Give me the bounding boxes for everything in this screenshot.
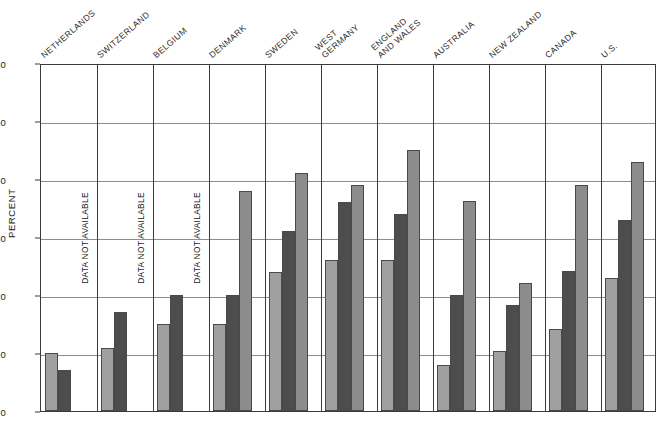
category-label: BELGIUM — [152, 26, 190, 60]
bar-chart: PERCENT NETHERLANDSSWITZERLANDBELGIUMDEN… — [0, 0, 669, 426]
bar — [213, 324, 226, 411]
category-label: AUSTRALIA — [432, 19, 477, 60]
y-tick-mark-20 — [35, 296, 40, 297]
bar — [463, 201, 476, 411]
category-label: SWEDEN — [264, 27, 301, 60]
y-tick-label-10: 10 — [0, 349, 6, 360]
bar — [170, 295, 183, 411]
data-not-available-label: DATA NOT AVAILABLE — [136, 192, 146, 284]
y-tick-label-60: 60 — [0, 59, 6, 70]
bar — [562, 271, 575, 411]
category-label: SWITZERLAND — [96, 10, 152, 60]
y-tick-mark-30 — [35, 238, 40, 239]
bar — [618, 220, 631, 411]
bar — [101, 348, 114, 411]
data-not-available-marker: DATA NOT AVAILABLE — [183, 65, 210, 411]
bar — [519, 283, 532, 411]
category-label-row: NETHERLANDSSWITZERLANDBELGIUMDENMARKSWED… — [40, 0, 656, 62]
bar-group — [321, 65, 377, 411]
bar — [605, 278, 618, 411]
bar-group — [601, 65, 657, 411]
bar — [226, 295, 239, 411]
bar — [407, 150, 420, 411]
bar — [295, 173, 308, 411]
category-label: CANADA — [544, 28, 579, 60]
bar — [45, 353, 58, 411]
bar — [549, 329, 562, 411]
bar — [114, 312, 127, 411]
category-label: ENGLAND AND WALES — [370, 10, 423, 60]
bar — [282, 231, 295, 411]
bar-group — [265, 65, 321, 411]
bar — [575, 185, 588, 411]
bar — [269, 272, 282, 411]
data-not-available-label: DATA NOT AVAILABLE — [192, 192, 202, 284]
bar-group: DATA NOT AVAILABLE — [153, 65, 209, 411]
bar-group: DATA NOT AVAILABLE — [97, 65, 153, 411]
y-tick-label-0: 0 — [0, 407, 6, 418]
bar — [338, 202, 351, 411]
category-label: WEST GERMANY — [314, 15, 361, 60]
bar — [325, 260, 338, 411]
y-tick-label-50: 50 — [0, 117, 6, 128]
y-tick-label-30: 30 — [0, 233, 6, 244]
category-label: NETHERLANDS — [40, 8, 98, 60]
plot-area: DATA NOT AVAILABLEDATA NOT AVAILABLEDATA… — [40, 64, 656, 412]
bar-group — [209, 65, 265, 411]
bar — [58, 370, 71, 411]
category-label: U.S. — [600, 41, 620, 60]
category-label: NEW ZEALAND — [488, 9, 544, 60]
bar-group: DATA NOT AVAILABLE — [41, 65, 97, 411]
y-tick-label-20: 20 — [0, 291, 6, 302]
y-tick-mark-60 — [35, 64, 40, 65]
y-tick-mark-10 — [35, 354, 40, 355]
bar-group — [545, 65, 601, 411]
y-tick-mark-40 — [35, 180, 40, 181]
bar — [381, 260, 394, 411]
bar — [493, 351, 506, 411]
bar — [157, 324, 170, 411]
y-tick-label-40: 40 — [0, 175, 6, 186]
y-axis-title: PERCENT — [6, 188, 17, 238]
y-tick-mark-0 — [35, 412, 40, 413]
bar-group — [377, 65, 433, 411]
data-not-available-marker: DATA NOT AVAILABLE — [71, 65, 98, 411]
bar-group — [489, 65, 545, 411]
bar — [437, 365, 450, 411]
bar — [394, 214, 407, 411]
bar — [506, 305, 519, 411]
bar-group — [433, 65, 489, 411]
bar — [450, 295, 463, 411]
bar — [631, 162, 644, 411]
data-not-available-marker: DATA NOT AVAILABLE — [127, 65, 154, 411]
category-label: DENMARK — [208, 23, 249, 60]
bar — [351, 185, 364, 411]
data-not-available-label: DATA NOT AVAILABLE — [80, 192, 90, 284]
y-tick-mark-50 — [35, 122, 40, 123]
bar — [239, 191, 252, 411]
